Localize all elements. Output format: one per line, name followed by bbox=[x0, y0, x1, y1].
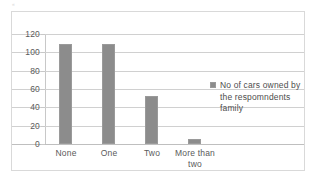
bar-more-than-two[interactable] bbox=[188, 139, 201, 144]
plot-area bbox=[45, 34, 217, 144]
chart-frame: 120 100 80 60 40 20 0 None One Two More … bbox=[11, 11, 305, 171]
legend: No of cars owned by the respomndents fam… bbox=[210, 80, 302, 115]
x-axis-label-none: None bbox=[42, 148, 90, 159]
y-tick-0 bbox=[41, 144, 45, 145]
y-axis-label-120: 120 bbox=[25, 29, 40, 39]
x-axis-label-two: Two bbox=[128, 148, 176, 159]
x-axis-label-one: One bbox=[85, 148, 133, 159]
bar-one[interactable] bbox=[102, 44, 115, 144]
y-axis-label-0: 0 bbox=[35, 139, 40, 149]
top-left-artifact: « bbox=[12, 1, 15, 7]
x-axis-label-more-than-two: More than two bbox=[171, 148, 219, 170]
bar-two[interactable] bbox=[145, 96, 158, 144]
x-axis-labels: None One Two More than two bbox=[45, 148, 217, 178]
gridline-0 bbox=[12, 144, 304, 145]
legend-swatch-icon bbox=[210, 82, 216, 88]
y-axis-label-100: 100 bbox=[25, 47, 40, 57]
y-axis-label-80: 80 bbox=[30, 66, 40, 76]
y-axis-label-40: 40 bbox=[30, 102, 40, 112]
legend-label: No of cars owned by the respomndents fam… bbox=[220, 80, 302, 115]
y-axis-label-20: 20 bbox=[30, 121, 40, 131]
bar-none[interactable] bbox=[59, 44, 72, 144]
y-axis-label-60: 60 bbox=[30, 84, 40, 94]
